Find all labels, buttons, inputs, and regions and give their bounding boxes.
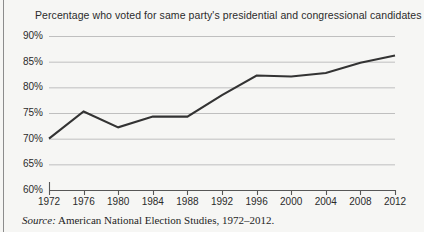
y-axis-label-75%: 75%: [9, 107, 43, 118]
source-note: Source: American National Election Studi…: [22, 214, 274, 226]
y-axis-label-85%: 85%: [9, 56, 43, 67]
figure-container: Percentage who voted for same party's pr…: [0, 0, 424, 232]
y-axis-label-80%: 80%: [9, 81, 43, 92]
y-axis-label-90%: 90%: [9, 30, 43, 41]
data-series-line: [49, 56, 395, 139]
y-axis-label-65%: 65%: [9, 158, 43, 169]
source-label: Source:: [22, 214, 56, 226]
gridlines-group: [49, 37, 395, 191]
y-axis-label-60%: 60%: [9, 184, 43, 195]
source-text: American National Election Studies, 1972…: [58, 214, 274, 226]
y-axis-label-70%: 70%: [9, 133, 43, 144]
x-axis-label-2012: 2012: [375, 196, 415, 207]
